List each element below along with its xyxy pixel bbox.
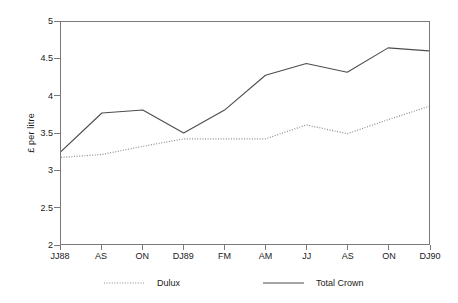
y-tick-label: 3.5 — [30, 129, 53, 138]
series-line-total-crown — [61, 48, 429, 152]
x-tick-label: DJ89 — [173, 251, 194, 261]
x-tick-label: JJ88 — [50, 251, 69, 261]
y-tick-label: 2 — [30, 241, 53, 250]
legend-swatch-total-crown — [263, 279, 304, 287]
y-tick-label: 3 — [30, 166, 53, 175]
legend-entry-dulux: Dulux — [104, 276, 180, 290]
series-line-dulux — [61, 106, 429, 157]
legend-label-dulux: Dulux — [157, 278, 180, 288]
x-tick-label: JJ — [302, 251, 311, 261]
legend-label-total-crown: Total Crown — [316, 278, 364, 288]
x-tick-label: AS — [342, 251, 354, 261]
x-tick-label: ON — [135, 251, 149, 261]
chart-legend: Dulux Total Crown — [60, 276, 430, 294]
x-axis-tick-labels: JJ88ASONDJ89FMAMJJASONDJ90 — [60, 251, 430, 265]
y-tick-label: 2.5 — [30, 203, 53, 212]
x-tick-label: AS — [95, 251, 107, 261]
y-tick-label: 5 — [30, 17, 53, 26]
y-axis-tick-labels: 22.533.544.55 — [30, 21, 53, 245]
x-tick-label: FM — [218, 251, 231, 261]
legend-entry-total-crown: Total Crown — [263, 276, 364, 290]
y-tick-label: 4.5 — [30, 54, 53, 63]
legend-swatch-dulux — [104, 279, 145, 287]
x-tick-label: AM — [259, 251, 273, 261]
line-chart-figure: £ per litre 22.533.544.55 JJ88ASONDJ89FM… — [0, 0, 458, 303]
y-tick-label: 4 — [30, 91, 53, 100]
x-tick-label: ON — [382, 251, 396, 261]
series-canvas — [61, 22, 429, 244]
plot-area — [60, 21, 430, 245]
x-tick-label: DJ90 — [419, 251, 440, 261]
